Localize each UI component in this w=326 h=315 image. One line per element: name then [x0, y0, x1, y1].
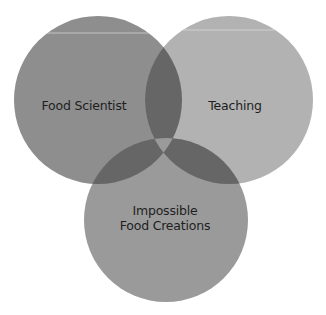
label-impossible-food-creations: Impossible Food Creations	[120, 203, 211, 233]
label-teaching: Teaching	[208, 98, 261, 113]
venn-diagram	[0, 0, 326, 315]
label-line-1: Impossible	[120, 203, 211, 218]
label-line-2: Food Creations	[120, 218, 211, 233]
label-food-scientist: Food Scientist	[42, 98, 127, 113]
